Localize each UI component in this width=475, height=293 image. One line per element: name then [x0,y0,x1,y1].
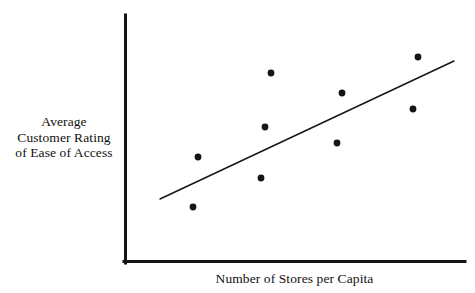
data-point [195,154,202,161]
x-axis-label: Number of Stores per Capita [124,271,465,287]
y-axis-label: Average Customer Rating of Ease of Acces… [8,114,120,161]
data-point [262,124,269,131]
data-point [415,54,422,61]
data-point [258,175,265,182]
y-axis-label-line-3: of Ease of Access [8,145,120,161]
data-point [268,70,275,77]
data-point [190,204,197,211]
data-point [410,106,417,113]
scatter-plot-figure: Average Customer Rating of Ease of Acces… [0,0,475,293]
y-axis-label-line-2: Customer Rating [8,130,120,146]
y-axis-label-line-1: Average [8,114,120,130]
data-point [339,90,346,97]
data-point [334,140,341,147]
